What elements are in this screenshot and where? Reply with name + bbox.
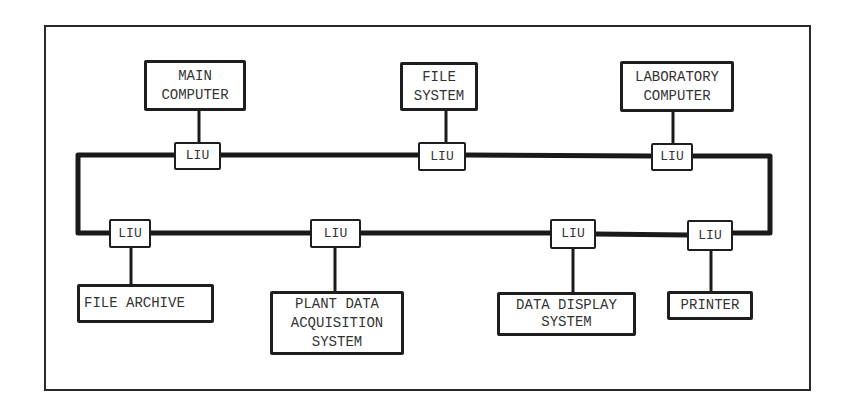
node-label: COMPUTER xyxy=(643,87,710,106)
node-label: PRINTER xyxy=(681,296,740,315)
node-label: DATA DISPLAY xyxy=(516,297,617,314)
file-archive-box: FILE ARCHIVE xyxy=(77,284,214,323)
liu-plant-data-acquisition: LIU xyxy=(310,219,361,248)
liu-file-archive: LIU xyxy=(109,219,151,248)
node-label: SYSTEM xyxy=(414,87,464,106)
file-system-box: FILE SYSTEM xyxy=(400,62,478,111)
node-label: LABORATORY xyxy=(635,68,719,87)
node-label: COMPUTER xyxy=(161,86,228,105)
node-label: SYSTEM xyxy=(541,314,591,331)
liu-main-computer: LIU xyxy=(174,142,221,170)
ring-network-diagram: MAIN COMPUTER FILE SYSTEM LABORATORY COM… xyxy=(0,0,851,416)
liu-label: LIU xyxy=(118,227,141,241)
liu-laboratory-computer: LIU xyxy=(651,143,693,171)
liu-file-system: LIU xyxy=(418,142,466,171)
liu-label: LIU xyxy=(430,150,453,164)
node-label: ACQUISITION xyxy=(291,314,383,333)
node-label: FILE ARCHIVE xyxy=(84,294,185,313)
data-display-system-box: DATA DISPLAY SYSTEM xyxy=(497,292,636,336)
node-label: FILE xyxy=(422,68,456,87)
plant-data-acquisition-system-box: PLANT DATA ACQUISITION SYSTEM xyxy=(270,291,404,355)
liu-data-display: LIU xyxy=(550,219,596,249)
liu-label: LIU xyxy=(186,149,209,163)
laboratory-computer-box: LABORATORY COMPUTER xyxy=(620,61,734,112)
node-label: PLANT DATA xyxy=(295,295,379,314)
drop-lines xyxy=(131,110,711,293)
liu-label: LIU xyxy=(698,229,721,243)
node-label: MAIN xyxy=(178,67,212,86)
node-label: SYSTEM xyxy=(312,333,362,352)
printer-box: PRINTER xyxy=(667,291,753,320)
main-computer-box: MAIN COMPUTER xyxy=(144,60,246,111)
liu-printer: LIU xyxy=(687,220,733,251)
liu-label: LIU xyxy=(561,227,584,241)
liu-label: LIU xyxy=(660,150,683,164)
liu-label: LIU xyxy=(324,227,347,241)
